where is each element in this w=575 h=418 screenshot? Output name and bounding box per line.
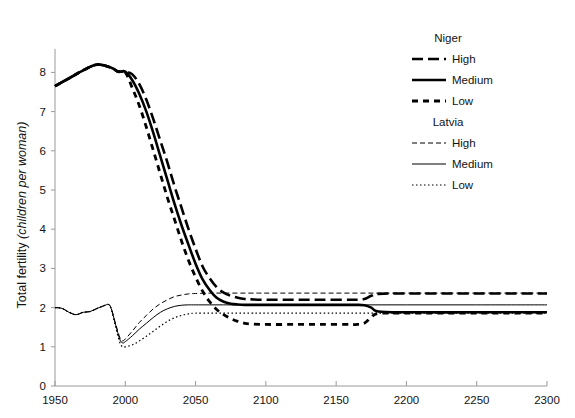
legend-entry-label: Medium (452, 74, 493, 86)
series-line-niger-high (55, 65, 547, 300)
y-tick-label: 0 (40, 380, 46, 392)
legend-entry-label: Low (452, 95, 474, 107)
legend-group-heading: Latvia (433, 116, 464, 128)
legend-entry-label: High (452, 53, 476, 65)
y-tick-label: 8 (40, 66, 46, 78)
x-tick-label: 2000 (112, 394, 138, 406)
legend-entry-label: Low (452, 179, 474, 191)
x-tick-label: 2100 (253, 394, 279, 406)
y-tick-label: 3 (40, 262, 46, 274)
y-tick-label: 7 (40, 106, 46, 118)
legend: NigerHighMediumLowLatviaHighMediumLow (412, 32, 493, 191)
fertility-chart: 0123456781950200020502100215022002250230… (0, 0, 575, 418)
y-tick-label: 6 (40, 145, 46, 157)
series-line-niger-medium (55, 65, 547, 313)
y-axis-title: Total fertility (children per woman) (15, 122, 29, 309)
x-tick-label: 2200 (394, 394, 420, 406)
y-tick-label: 2 (40, 302, 46, 314)
x-tick-label: 2300 (534, 394, 560, 406)
y-tick-label: 4 (40, 223, 47, 235)
y-axis-title-italic: (children per woman) (15, 122, 29, 239)
chart-canvas: 0123456781950200020502100215022002250230… (0, 0, 575, 418)
legend-entry-label: Medium (452, 158, 493, 170)
legend-entry-label: High (452, 137, 476, 149)
y-tick-label: 1 (40, 341, 46, 353)
series-line-niger-low (55, 65, 547, 325)
data-series-group (55, 65, 547, 348)
x-axis-ticks: 19502000205021002150220022502300 (42, 381, 560, 406)
x-tick-label: 1950 (42, 394, 68, 406)
y-tick-label: 5 (40, 184, 46, 196)
x-tick-label: 2150 (323, 394, 349, 406)
x-tick-label: 2250 (464, 394, 490, 406)
legend-group-heading: Niger (434, 32, 462, 44)
y-axis-title-main: Total fertility (15, 239, 29, 308)
y-axis-ticks: 012345678 (40, 66, 55, 392)
x-tick-label: 2050 (183, 394, 209, 406)
